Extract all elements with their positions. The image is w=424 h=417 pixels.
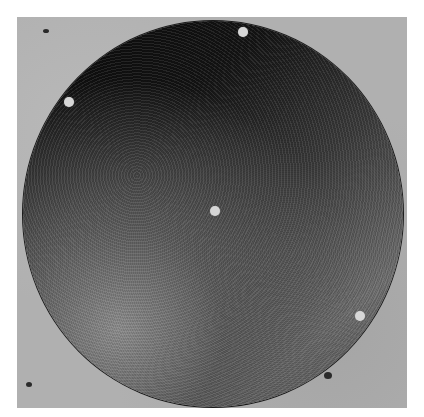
debris-spot <box>26 382 32 387</box>
hole-center <box>210 206 220 216</box>
hole-top <box>238 27 248 37</box>
photograph <box>17 17 407 408</box>
debris-spot <box>43 29 49 33</box>
hole-lower-right <box>355 311 365 321</box>
hole-upper-left <box>64 97 74 107</box>
debris-spot <box>324 372 332 379</box>
